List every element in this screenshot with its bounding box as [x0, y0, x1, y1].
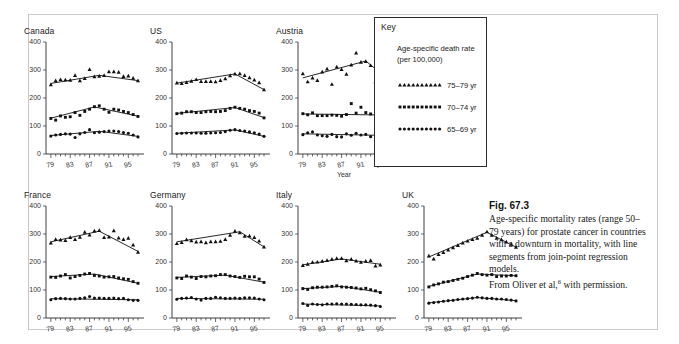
panel-title-us: US: [150, 26, 162, 36]
svg-text:87: 87: [463, 324, 472, 332]
figure-source: From Oliver et al,6 with permission.: [489, 276, 649, 292]
svg-text:0: 0: [163, 150, 167, 157]
svg-text:83: 83: [65, 324, 74, 332]
svg-text:83: 83: [191, 160, 200, 168]
key-entry-label: 70–74 yr: [443, 103, 477, 112]
svg-text:200: 200: [155, 258, 167, 265]
svg-text:300: 300: [29, 66, 41, 73]
svg-text:95: 95: [123, 324, 132, 332]
key-title: Key: [381, 22, 396, 32]
svg-text:400: 400: [155, 202, 167, 209]
svg-text:400: 400: [29, 202, 41, 209]
svg-text:100: 100: [29, 122, 41, 129]
svg-text:400: 400: [29, 38, 41, 45]
key-entry-2: 70–74 yr: [397, 96, 489, 118]
plot-area-us: 01002003004007983879195: [150, 38, 276, 176]
svg-text:100: 100: [29, 286, 41, 293]
svg-text:400: 400: [155, 38, 167, 45]
key-entry-3: 65–69 yr: [397, 118, 489, 140]
svg-text:400: 400: [281, 202, 293, 209]
plot-area-germany: 01002003004007983879195: [150, 202, 276, 340]
figure-caption: Fig. 67.3Age-specific mortality rates (r…: [489, 200, 649, 292]
svg-text:300: 300: [155, 230, 167, 237]
svg-text:83: 83: [443, 324, 452, 332]
panel-title-france: France: [24, 190, 51, 200]
panel-title-italy: Italy: [276, 190, 292, 200]
circle-marker-icon: [397, 124, 443, 134]
svg-text:300: 300: [29, 230, 41, 237]
svg-text:100: 100: [281, 286, 293, 293]
svg-text:91: 91: [356, 160, 365, 168]
svg-text:0: 0: [163, 314, 167, 321]
key-heading: Age-specific death rate (per 100,000): [397, 44, 485, 65]
key-box: Key Age-specific death rate (per 100,000…: [374, 17, 487, 167]
svg-text:87: 87: [211, 324, 220, 332]
plot-area-france: 01002003004007983879195: [24, 202, 150, 340]
svg-text:300: 300: [155, 66, 167, 73]
svg-text:83: 83: [317, 324, 326, 332]
key-entry-label: 75–79 yr: [443, 81, 477, 90]
svg-text:200: 200: [155, 94, 167, 101]
svg-text:83: 83: [191, 324, 200, 332]
svg-text:95: 95: [501, 324, 510, 332]
svg-text:87: 87: [85, 324, 94, 332]
svg-text:87: 87: [337, 160, 346, 168]
svg-text:300: 300: [281, 230, 293, 237]
svg-text:79: 79: [46, 324, 55, 332]
svg-text:300: 300: [281, 66, 293, 73]
svg-text:100: 100: [155, 122, 167, 129]
svg-text:0: 0: [37, 314, 41, 321]
svg-text:79: 79: [46, 160, 55, 168]
svg-text:100: 100: [155, 286, 167, 293]
panel-title-austria: Austria: [276, 26, 303, 36]
square-marker-icon: [397, 102, 443, 112]
svg-text:300: 300: [407, 230, 419, 237]
svg-text:83: 83: [65, 160, 74, 168]
svg-text:91: 91: [230, 160, 239, 168]
key-heading-line2: (per 100,000): [397, 55, 485, 66]
svg-text:200: 200: [407, 258, 419, 265]
svg-text:91: 91: [230, 324, 239, 332]
panel-title-canada: Canada: [24, 26, 54, 36]
figure-number: Fig. 67.3: [489, 200, 649, 212]
figure-page: Canada01002003004007983879195US010020030…: [0, 0, 679, 344]
plot-area-canada: 01002003004007983879195: [24, 38, 150, 176]
svg-text:87: 87: [337, 324, 346, 332]
svg-text:95: 95: [375, 324, 384, 332]
svg-text:95: 95: [249, 160, 258, 168]
plot-area-italy: 01002003004007983879195: [276, 202, 402, 340]
key-heading-line1: Age-specific death rate: [397, 44, 485, 55]
svg-text:79: 79: [172, 324, 181, 332]
figure-source-suffix: with permission.: [561, 280, 627, 291]
svg-text:95: 95: [249, 324, 258, 332]
panel-title-germany: Germany: [150, 190, 186, 200]
svg-text:400: 400: [281, 38, 293, 45]
svg-text:0: 0: [289, 314, 293, 321]
svg-text:400: 400: [407, 202, 419, 209]
svg-text:83: 83: [317, 160, 326, 168]
svg-text:91: 91: [104, 324, 113, 332]
svg-text:91: 91: [104, 160, 113, 168]
svg-text:0: 0: [37, 150, 41, 157]
svg-text:91: 91: [482, 324, 491, 332]
svg-text:200: 200: [281, 94, 293, 101]
svg-text:200: 200: [29, 258, 41, 265]
svg-text:95: 95: [123, 160, 132, 168]
svg-text:87: 87: [85, 160, 94, 168]
svg-text:0: 0: [415, 314, 419, 321]
svg-text:87: 87: [211, 160, 220, 168]
svg-text:100: 100: [281, 122, 293, 129]
svg-text:100: 100: [407, 286, 419, 293]
svg-text:200: 200: [29, 94, 41, 101]
svg-text:79: 79: [298, 324, 307, 332]
svg-text:79: 79: [424, 324, 433, 332]
svg-text:200: 200: [281, 258, 293, 265]
svg-text:79: 79: [298, 160, 307, 168]
key-entry-label: 65–69 yr: [443, 125, 477, 134]
svg-text:79: 79: [172, 160, 181, 168]
figure-caption-text: Age-specific mortality rates (range 50–7…: [489, 213, 646, 274]
svg-text:0: 0: [289, 150, 293, 157]
figure-source-prefix: From Oliver et al,: [489, 280, 558, 291]
svg-text:91: 91: [356, 324, 365, 332]
x-axis-label-year: Year: [298, 171, 390, 178]
